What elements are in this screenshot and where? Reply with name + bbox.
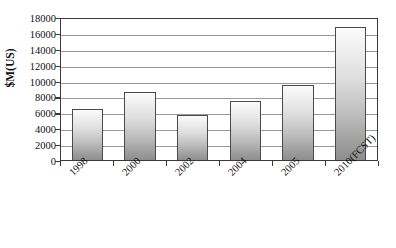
y-axis-tick-label: 16000 — [16, 29, 56, 40]
bar[interactable] — [124, 92, 156, 160]
y-axis-tick-label: 8000 — [16, 92, 56, 103]
bar[interactable] — [72, 109, 104, 160]
y-axis-tick-label: 0 — [16, 156, 56, 167]
y-axis-tick-label: 10000 — [16, 77, 56, 88]
y-axis-tick-label: 6000 — [16, 108, 56, 119]
y-axis-tick-label-group: 1800016000140001200010000800060004000200… — [16, 12, 56, 167]
bar-slot — [219, 19, 272, 160]
y-axis-tick-label: 12000 — [16, 61, 56, 72]
x-axis-tick-label-group: 199820002002200420052010(FCST) — [60, 166, 396, 248]
bar[interactable] — [282, 85, 314, 160]
bar-slot — [114, 19, 167, 160]
bar-slot — [272, 19, 325, 160]
y-axis-title: $M(US) — [4, 33, 16, 103]
bar[interactable] — [230, 101, 262, 160]
bar-slot — [61, 19, 114, 160]
plot-area — [60, 18, 378, 161]
bar-chart-figure: $M(US) 180001600014000120001000080006000… — [0, 0, 396, 248]
y-axis-tick-label: 4000 — [16, 124, 56, 135]
bar-slot — [166, 19, 219, 160]
y-axis-tick-label: 2000 — [16, 140, 56, 151]
y-axis-tick-label: 14000 — [16, 45, 56, 56]
bar[interactable] — [177, 115, 209, 160]
y-axis-tick-label: 18000 — [16, 13, 56, 24]
bar-series-group — [61, 19, 377, 160]
